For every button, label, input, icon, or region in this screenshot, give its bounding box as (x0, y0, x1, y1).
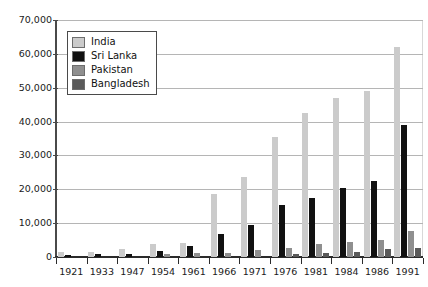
legend-swatch-pakistan (72, 65, 85, 76)
bar-india (241, 177, 247, 257)
y-axis-tick-mark (53, 223, 58, 224)
bar-group (178, 20, 209, 257)
x-axis-tick-mark (239, 258, 240, 264)
bar-pakistan (286, 248, 292, 257)
y-axis-tick-label: 70,000 (4, 15, 52, 24)
bar-bangladesh (354, 252, 360, 257)
bar-group (392, 20, 423, 257)
x-axis-ticks (56, 258, 423, 264)
y-axis-tick-mark (53, 155, 58, 156)
bar-sri-lanka (248, 225, 254, 258)
x-axis-tick (301, 258, 332, 264)
x-axis-tick (270, 258, 301, 264)
legend-label: Bangladesh (91, 78, 150, 90)
y-axis-tick-mark (53, 20, 58, 21)
bar-sri-lanka (187, 246, 193, 257)
x-axis-tick-mark (362, 258, 363, 264)
legend-label: India (91, 36, 116, 48)
bar-bangladesh (293, 254, 299, 257)
y-axis-tick-mark (53, 257, 58, 258)
x-axis-tick (239, 258, 270, 264)
x-axis-tick-label: 1954 (148, 265, 179, 281)
x-axis-tick-label: 1981 (301, 265, 332, 281)
legend-item: India (72, 35, 150, 49)
y-axis-tick-mark (53, 122, 58, 123)
legend-swatch-india (72, 37, 85, 48)
bar-india (58, 252, 64, 257)
bar-india (302, 113, 308, 257)
x-axis-tick (87, 258, 118, 264)
bar-pakistan (316, 244, 322, 257)
x-axis-tick-label: 1921 (56, 265, 87, 281)
x-axis-tick-mark (209, 258, 210, 264)
legend-label: Sri Lanka (91, 50, 137, 62)
bar-group (301, 20, 332, 257)
bar-bangladesh (323, 253, 329, 257)
bar-india (394, 47, 400, 257)
y-axis-tick-label: 20,000 (4, 184, 52, 193)
bar-india (180, 243, 186, 257)
bar-india (211, 194, 217, 257)
x-axis-tick-label: 1947 (117, 265, 148, 281)
bar-group (209, 20, 240, 257)
x-axis-tick-mark (301, 258, 302, 264)
bar-bangladesh (385, 249, 391, 257)
bar-group (331, 20, 362, 257)
x-axis-tick-mark (178, 258, 179, 264)
x-axis-tick-label: 1971 (239, 265, 270, 281)
bar-sri-lanka (340, 188, 346, 257)
bar-india (88, 252, 94, 257)
legend-item: Bangladesh (72, 77, 150, 91)
legend-label: Pakistan (91, 64, 133, 76)
bar-pakistan (225, 253, 231, 257)
x-axis-tick-label: 1976 (270, 265, 301, 281)
x-axis-tick-mark (392, 258, 393, 264)
x-axis-tick-mark (423, 258, 424, 264)
x-axis-tick (331, 258, 362, 264)
bar-sri-lanka (218, 234, 224, 257)
bar-pakistan (164, 254, 170, 257)
bar-india (272, 137, 278, 257)
y-axis-tick-mark (53, 54, 58, 55)
legend-item: Sri Lanka (72, 49, 150, 63)
x-axis-tick (178, 258, 209, 264)
bar-india (333, 98, 339, 257)
x-axis-tick (117, 258, 148, 264)
bar-pakistan (194, 253, 200, 257)
bar-pakistan (347, 242, 353, 257)
y-axis-tick-label: 10,000 (4, 218, 52, 227)
bar-sri-lanka (279, 205, 285, 257)
bar-bangladesh (415, 248, 421, 257)
bar-group (239, 20, 270, 257)
x-axis-tick (362, 258, 393, 264)
x-axis-tick-label: 1933 (87, 265, 118, 281)
bar-pakistan (378, 240, 384, 257)
bar-sri-lanka (371, 181, 377, 257)
chart-legend: IndiaSri LankaPakistanBangladesh (67, 31, 157, 95)
y-axis-tick-mark (53, 189, 58, 190)
bar-group (362, 20, 393, 257)
y-axis-tick-label: 30,000 (4, 150, 52, 159)
x-axis-tick (209, 258, 240, 264)
bar-india (150, 244, 156, 257)
x-axis-tick-label: 1991 (392, 265, 423, 281)
x-axis-tick-label: 1961 (178, 265, 209, 281)
legend-item: Pakistan (72, 63, 150, 77)
bar-sri-lanka (126, 254, 132, 257)
y-axis-tick-label: 0 (4, 252, 52, 261)
x-axis-tick-label: 1966 (209, 265, 240, 281)
y-axis-tick-mark (53, 88, 58, 89)
bar-india (119, 249, 125, 257)
x-axis-tick-mark (148, 258, 149, 264)
x-axis-tick-mark (56, 258, 57, 264)
bar-chart: 010,00020,00030,00040,00050,00060,00070,… (0, 0, 428, 287)
y-axis-tick-label: 40,000 (4, 117, 52, 126)
x-axis-tick-mark (87, 258, 88, 264)
bar-pakistan (255, 250, 261, 257)
x-axis-tick (392, 258, 423, 264)
bar-sri-lanka (95, 254, 101, 257)
x-axis-tick-label: 1986 (362, 265, 393, 281)
x-axis-tick-label: 1984 (331, 265, 362, 281)
x-axis-tick-mark (270, 258, 271, 264)
x-axis-tick-mark (117, 258, 118, 264)
